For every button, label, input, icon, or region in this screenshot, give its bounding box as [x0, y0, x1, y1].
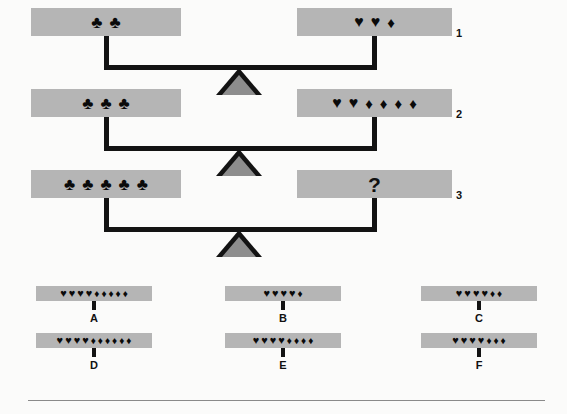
option-e-letter[interactable]: E [275, 359, 291, 371]
diamond-icon: ♦ [308, 336, 313, 346]
diamond-icon: ♦ [109, 289, 114, 299]
diamond-icon: ♦ [94, 289, 99, 299]
option-a-letter[interactable]: A [86, 312, 102, 324]
heart-icon: ♥ [332, 95, 342, 111]
row-number-1: 1 [456, 27, 462, 39]
diamond-icon: ♦ [98, 336, 103, 346]
heart-icon: ♥ [263, 288, 270, 299]
diamond-icon: ♦ [387, 15, 395, 30]
diamond-icon: ♦ [301, 336, 306, 346]
row-number-3: 3 [456, 189, 462, 201]
heart-icon: ♥ [371, 14, 381, 30]
diamond-icon: ♦ [119, 336, 124, 346]
pan-row1-right: ♥ ♥ ♦ [297, 8, 452, 36]
heart-icon: ♥ [452, 335, 459, 346]
hanger-row1-right [372, 36, 377, 68]
pan-row2-right: ♥ ♥ ♦ ♦ ♦ ♦ [297, 89, 452, 117]
option-a-stem [92, 301, 96, 310]
heart-icon: ♥ [349, 95, 359, 111]
option-f-letter[interactable]: F [471, 359, 487, 371]
heart-icon: ♥ [270, 335, 277, 346]
hanger-row1-left [104, 36, 109, 68]
option-a-items: ♥ ♥ ♥ ♥ ♦ ♦ ♦ ♦ ♦ [60, 288, 128, 299]
diamond-icon: ♦ [486, 336, 491, 346]
diamond-icon: ♦ [105, 336, 110, 346]
pan-row2-right-items: ♥ ♥ ♦ ♦ ♦ ♦ [332, 95, 417, 111]
heart-icon: ♥ [272, 288, 279, 299]
heart-icon: ♥ [278, 335, 285, 346]
row-number-2: 2 [456, 108, 462, 120]
option-c-bar[interactable]: ♥ ♥ ♥ ♥ ♦ ♦ [421, 286, 537, 301]
diamond-icon: ♦ [395, 96, 403, 111]
heart-icon: ♥ [464, 288, 471, 299]
heart-icon: ♥ [74, 335, 81, 346]
option-d-letter[interactable]: D [86, 359, 102, 371]
option-d-items: ♥ ♥ ♥ ♥ ♦ ♦ ♦ ♦ ♦ ♦ [57, 335, 132, 346]
pan-row3-left: ♣ ♣ ♣ ♣ ♣ [31, 170, 181, 198]
diamond-icon: ♦ [298, 289, 303, 299]
option-b-bar[interactable]: ♥ ♥ ♥ ♥ ♦ [225, 286, 341, 301]
diamond-icon: ♦ [380, 96, 388, 111]
pan-row2-left: ♣ ♣ ♣ [31, 89, 181, 117]
option-f-bar[interactable]: ♥ ♥ ♥ ♥ ♦ ♦ ♦ [421, 333, 537, 348]
heart-icon: ♥ [354, 14, 364, 30]
diamond-icon: ♦ [490, 289, 495, 299]
heart-icon: ♥ [481, 288, 488, 299]
fulcrum-fill [222, 75, 256, 95]
heart-icon: ♥ [280, 288, 287, 299]
option-a-bar[interactable]: ♥ ♥ ♥ ♥ ♦ ♦ ♦ ♦ ♦ [36, 286, 152, 301]
club-icon: ♣ [137, 176, 148, 193]
pan-row2-left-items: ♣ ♣ ♣ [82, 95, 129, 112]
pan-row1-left-items: ♣ ♣ [91, 14, 120, 31]
pan-row1-left: ♣ ♣ [31, 8, 181, 36]
heart-icon: ♥ [469, 335, 476, 346]
diamond-icon: ♦ [126, 336, 131, 346]
club-icon: ♣ [119, 95, 130, 112]
diamond-icon: ♦ [497, 289, 502, 299]
option-d-bar[interactable]: ♥ ♥ ♥ ♥ ♦ ♦ ♦ ♦ ♦ ♦ [36, 333, 152, 348]
hanger-row3-left [104, 198, 109, 230]
heart-icon: ♥ [456, 288, 463, 299]
heart-icon: ♥ [473, 288, 480, 299]
heart-icon: ♥ [261, 335, 268, 346]
heart-icon: ♥ [57, 335, 64, 346]
club-icon: ♣ [64, 176, 75, 193]
hanger-row3-right [372, 198, 377, 230]
pan-row1-right-items: ♥ ♥ ♦ [354, 14, 395, 30]
club-icon: ♣ [100, 95, 111, 112]
pan-row3-right-unknown: ? [297, 170, 452, 198]
heart-icon: ♥ [289, 288, 296, 299]
option-e-items: ♥ ♥ ♥ ♥ ♦ ♦ ♦ ♦ [253, 335, 314, 346]
puzzle-canvas: ♣ ♣ ♥ ♥ ♦ 1 ♣ ♣ ♣ ♥ ♥ ♦ ♦ ♦ ♦ [0, 0, 567, 414]
diamond-icon: ♦ [294, 336, 299, 346]
option-f-stem [477, 348, 481, 357]
heart-icon: ♥ [82, 335, 89, 346]
diamond-icon: ♦ [112, 336, 117, 346]
option-e-bar[interactable]: ♥ ♥ ♥ ♥ ♦ ♦ ♦ ♦ [225, 333, 341, 348]
club-icon: ♣ [119, 176, 130, 193]
option-d-stem [92, 348, 96, 357]
diamond-icon: ♦ [101, 289, 106, 299]
diamond-icon: ♦ [123, 289, 128, 299]
diamond-icon: ♦ [409, 96, 417, 111]
diamond-icon: ♦ [287, 336, 292, 346]
option-b-letter[interactable]: B [275, 312, 291, 324]
option-c-letter[interactable]: C [471, 312, 487, 324]
heart-icon: ♥ [461, 335, 468, 346]
heart-icon: ♥ [478, 335, 485, 346]
club-icon: ♣ [82, 176, 93, 193]
heart-icon: ♥ [60, 288, 67, 299]
club-icon: ♣ [91, 14, 102, 31]
hanger-row2-left [104, 117, 109, 149]
option-c-stem [477, 301, 481, 310]
option-e-stem [281, 348, 285, 357]
option-b-stem [281, 301, 285, 310]
fulcrum-fill [222, 237, 256, 257]
diamond-icon: ♦ [365, 96, 373, 111]
heart-icon: ♥ [69, 288, 76, 299]
bottom-divider [28, 400, 545, 401]
club-icon: ♣ [100, 176, 111, 193]
fulcrum-fill [222, 156, 256, 176]
pan-row3-left-items: ♣ ♣ ♣ ♣ ♣ [64, 176, 148, 193]
hanger-row2-right [372, 117, 377, 149]
